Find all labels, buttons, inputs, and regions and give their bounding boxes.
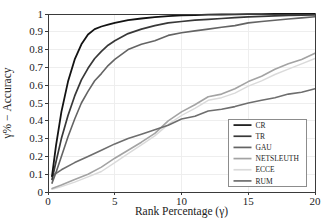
x-tick-label: 15 <box>243 195 255 207</box>
y-tick-label: 0.7 <box>29 61 43 73</box>
accuracy-vs-rank-chart: 0510152000.10.20.30.40.50.60.70.80.91Ran… <box>0 0 323 222</box>
legend-label-ecce: ECCE <box>256 165 276 174</box>
chart-figure: 0510152000.10.20.30.40.50.60.70.80.91Ran… <box>0 0 323 222</box>
x-tick-label: 20 <box>310 195 322 207</box>
x-axis-label: Rank Percentage (γ) <box>135 205 228 218</box>
y-tick-label: 0.8 <box>29 43 43 55</box>
legend-label-rum: RUM <box>256 177 273 186</box>
y-tick-label: 0 <box>38 186 44 198</box>
y-tick-label: 0.2 <box>29 150 43 162</box>
x-tick-label: 0 <box>45 195 51 207</box>
legend-label-cr: CR <box>256 121 266 130</box>
legend-label-gau: GAU <box>256 143 273 152</box>
y-tick-label: 0.9 <box>29 25 43 37</box>
y-tick-label: 0.5 <box>29 97 43 109</box>
y-tick-label: 0.6 <box>29 79 43 91</box>
y-tick-label: 1 <box>38 8 44 20</box>
legend-label-netsleuth: NETSLEUTH <box>256 154 300 163</box>
y-tick-label: 0.3 <box>29 132 43 144</box>
y-tick-label: 0.1 <box>29 168 43 180</box>
y-tick-label: 0.4 <box>29 114 43 126</box>
legend-label-tr: TR <box>256 132 266 141</box>
x-tick-label: 5 <box>112 195 118 207</box>
y-axis-label: γ% − Accuracy <box>1 67 14 139</box>
